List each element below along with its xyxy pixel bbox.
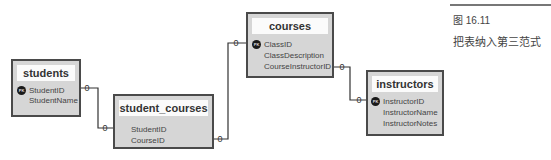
figure-caption: 把表纳入第三范式 [453, 33, 541, 49]
cardinality-label: 0 [356, 95, 361, 105]
cardinality-label: 0 [84, 83, 89, 93]
er-diagram: 0 0 0 0 0 0 students PK StudentID Studen… [0, 0, 551, 160]
caption-divider [450, 4, 551, 6]
table-student-courses[interactable]: student_courses StudentID CourseID [113, 94, 214, 149]
field-studentname[interactable]: StudentName [29, 96, 78, 106]
field-studentid[interactable]: StudentID [29, 86, 65, 96]
field-studentid[interactable]: StudentID [131, 125, 167, 135]
table-title: students [17, 65, 75, 81]
cardinality-label: 0 [102, 123, 107, 133]
table-title: instructors [372, 76, 438, 92]
field-courseinstructorid[interactable]: CourseInstructorID [264, 62, 331, 72]
table-students[interactable]: students PK StudentID StudentName [11, 59, 81, 117]
primary-key-icon: PK [252, 40, 261, 49]
field-courseid[interactable]: CourseID [131, 136, 165, 146]
table-courses[interactable]: courses PK ClassID ClassDescription Cour… [246, 12, 334, 78]
primary-key-icon: PK [371, 97, 380, 106]
table-title: courses [252, 18, 328, 34]
field-instructorname[interactable]: InstructorName [383, 108, 438, 118]
field-classid[interactable]: ClassID [264, 40, 292, 50]
table-title: student_courses [119, 100, 208, 116]
field-instructorid[interactable]: InstructorID [383, 97, 424, 107]
figure-number: 图 16.11 [453, 12, 490, 27]
cardinality-label: 0 [217, 134, 222, 144]
primary-key-icon: PK [17, 86, 26, 95]
table-instructors[interactable]: instructors PK InstructorID InstructorNa… [366, 70, 444, 136]
field-classdescription[interactable]: ClassDescription [264, 51, 324, 61]
field-instructornotes[interactable]: InstructorNotes [383, 119, 437, 129]
cardinality-label: 0 [233, 38, 238, 48]
cardinality-label: 0 [339, 62, 344, 72]
